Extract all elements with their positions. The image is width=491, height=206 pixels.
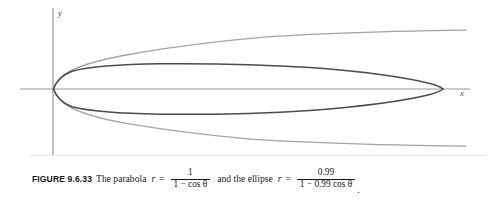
x-axis-label: x: [459, 88, 464, 98]
caption-end-period: .: [357, 185, 359, 196]
y-axis-label: y: [57, 8, 62, 18]
caption-intro-text: The parabola: [96, 174, 146, 184]
parabola-curve: [54, 30, 467, 146]
ellipse-fraction: 0.99 1 − 0.99 cos θ: [297, 168, 355, 190]
figure-caption: FIGURE 9.6.33 The parabola r = 1 1 − cos…: [32, 162, 482, 196]
parabola-lower-branch: [54, 89, 467, 146]
caption-variable-r-parabola: r: [151, 174, 155, 184]
parabola-numerator: 1: [185, 168, 196, 178]
caption-equals-2: =: [285, 174, 290, 184]
parabola-upper-branch: [54, 30, 467, 89]
ellipse-lower-arc: [54, 89, 444, 114]
figure-container: y x FIGURE 9.6.33 The parabola r = 1 1 −…: [0, 0, 491, 206]
caption-variable-r-ellipse: r: [278, 174, 282, 184]
caption-equals-1: =: [159, 174, 164, 184]
ellipse-upper-arc: [54, 64, 444, 89]
parabola-fraction: 1 1 − cos θ: [171, 168, 211, 190]
caption-middle-text: and the ellipse: [217, 174, 272, 184]
ellipse-denominator: 1 − 0.99 cos θ: [297, 180, 355, 190]
ellipse-numerator: 0.99: [315, 168, 337, 178]
plot-area: y x: [0, 0, 491, 158]
parabola-denominator: 1 − cos θ: [171, 180, 211, 190]
polar-curves-plot: y x: [0, 0, 491, 158]
caption-divider: [30, 155, 485, 156]
figure-number-label: FIGURE 9.6.33: [32, 175, 92, 184]
axes-group: [20, 8, 470, 156]
